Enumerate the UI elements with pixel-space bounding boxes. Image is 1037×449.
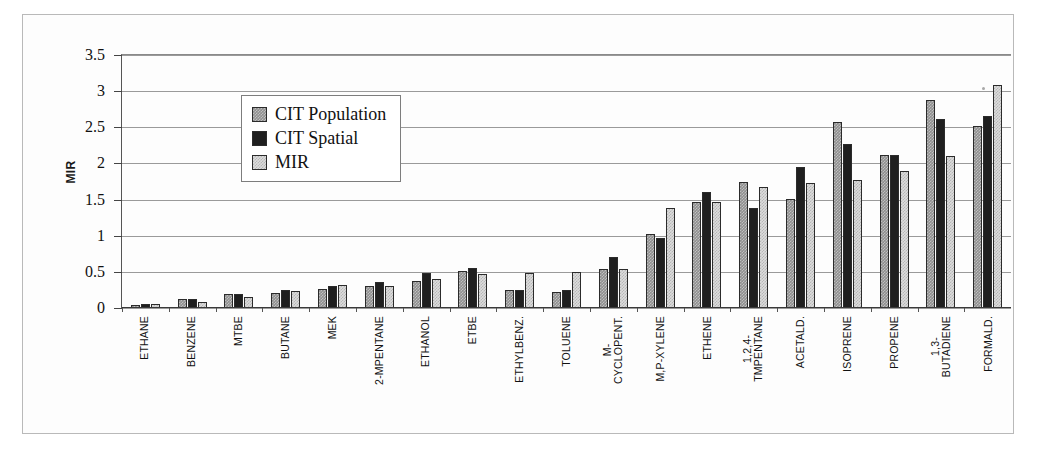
x-axis-label-cell: BENZENE [168,312,215,418]
bar [890,155,899,308]
y-axis-tick-label: 3 [97,82,105,100]
bar [562,290,571,308]
x-axis-label: ETBE [467,316,478,344]
legend-item: MIR [252,150,386,174]
bar [525,273,534,308]
bar-group [450,55,497,308]
bar [338,285,347,308]
chart-figure: MIR 00.511.522.533.5 ETHANEBENZENEMTBEBU… [22,14,1014,434]
bar [843,144,852,308]
gridline: 0 [122,308,1011,309]
bar [505,290,514,308]
x-axis-label: 2-MPENTANE [373,316,384,385]
bar [468,268,477,308]
x-axis-label-cell: BUTANE [262,312,309,418]
x-axis-label-cell: ETHYLBENZ. [496,312,543,418]
x-axis-line [122,307,1011,308]
bar [796,167,805,308]
bar [656,238,665,308]
bar-group [871,55,918,308]
bar [458,271,467,308]
bar [946,156,955,308]
bar [646,234,655,308]
y-axis-tick: 2 [114,163,122,164]
bar-group [730,55,777,308]
bar [806,183,815,308]
bar-group [169,55,216,308]
bar-group [637,55,684,308]
y-axis-tick: 1 [114,236,122,237]
bar-group [496,55,543,308]
bar-group [684,55,731,308]
x-axis-label-cell: ETHENE [683,312,730,418]
x-axis-label-cell: M- CYCLOPENT. [589,312,636,418]
x-axis-label-cell: 2-MPENTANE [355,312,402,418]
y-axis-tick-label: 2 [97,154,105,172]
bar [833,122,842,308]
x-axis-label: M- CYCLOPENT. [602,316,624,384]
bar [385,286,394,308]
bar [515,290,524,308]
bar-group [777,55,824,308]
bar [692,202,701,308]
y-axis-title: MIR [64,142,78,202]
x-axis-label-cell: M,P-XYLENE [636,312,683,418]
bar [281,290,290,308]
legend-swatch-icon [252,155,267,170]
x-axis-label: TOLUENE [561,316,572,367]
x-axis-label: ISOPRENE [842,316,853,372]
x-axis-label: MEK [326,316,337,339]
x-axis-label-cell: PROPENE [871,312,918,418]
bar [609,257,618,308]
x-axis-label: ETHENE [701,316,712,360]
bar [365,286,374,308]
bar [900,171,909,308]
x-axis-label-cell: ACETALD. [777,312,824,418]
bar [702,192,711,308]
x-axis-label: FORMALD. [982,316,993,372]
x-axis-label: ETHYLBENZ. [514,316,525,383]
bar-group [964,55,1011,308]
x-axis-label-cell: 1,3- BUTADIENE [917,312,964,418]
y-axis-tick: 3 [114,91,122,92]
bar [412,281,421,308]
y-axis-tick-label: 0.5 [85,262,105,280]
y-axis-tick-label: 1 [97,226,105,244]
legend-label: MIR [275,153,309,171]
legend-item: CIT Population [252,102,386,126]
x-axis-label: MTBE [233,316,244,346]
bar-group [122,55,169,308]
y-axis-tick-label: 2.5 [85,118,105,136]
y-axis-tick: 2.5 [114,127,122,128]
x-axis-label: 1,3- BUTADIENE [930,316,952,377]
bar [739,182,748,308]
bar [422,273,431,308]
x-axis-label-cell: ETHANE [121,312,168,418]
bar [853,180,862,308]
legend-label: CIT Spatial [275,129,358,147]
bar-group [543,55,590,308]
bar [552,292,561,308]
bar [291,291,300,308]
bar [993,85,1002,308]
bar [432,279,441,308]
bar [936,119,945,308]
legend-label: CIT Population [275,105,386,123]
bar [759,187,768,308]
bar [712,202,721,308]
y-axis-tick: 0.5 [114,272,122,273]
x-axis-label: ACETALD. [795,316,806,368]
y-axis-tick: 1.5 [114,200,122,201]
bar [478,274,487,308]
x-axis-label-cell: TOLUENE [543,312,590,418]
bar-group [918,55,965,308]
x-axis-label: ETHANOL [420,316,431,367]
x-axis-labels: ETHANEBENZENEMTBEBUTANEMEK2-MPENTANEETHA… [121,312,1011,418]
bar [572,272,581,308]
bar [880,155,889,308]
bar [983,116,992,308]
x-axis-label-cell: FORMALD. [964,312,1011,418]
y-axis-tick: 3.5 [114,55,122,56]
bar [749,208,758,308]
bar [375,282,384,308]
